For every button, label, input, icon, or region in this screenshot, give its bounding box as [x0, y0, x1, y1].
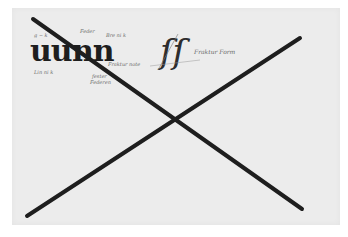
cross-stroke-1 [33, 19, 302, 209]
cross-stroke-2 [27, 38, 300, 216]
cross-out-mark [0, 0, 348, 237]
guide-stroke [150, 60, 200, 66]
